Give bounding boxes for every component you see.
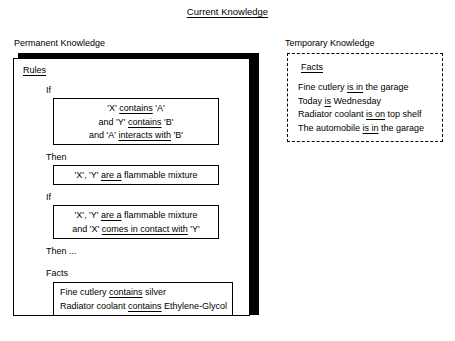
temporary-knowledge-caption: Temporary Knowledge xyxy=(285,38,375,49)
temporary-facts-list: Fine cutlery is in the garage Today is W… xyxy=(298,81,424,135)
permanent-facts-box: Fine cutlery contains silver Radiator co… xyxy=(53,282,233,316)
rule1-then-label: Then xyxy=(46,152,67,163)
rule1-then-line-1: 'X', 'Y' are a flammable mixture xyxy=(60,169,212,183)
temporary-fact-line-2: Today is Wednesday xyxy=(298,95,424,109)
rules-heading: Rules xyxy=(23,65,46,76)
page-title-text: Current Knowledge xyxy=(187,6,268,17)
temporary-fact-line-4: The automobile is in the garage xyxy=(298,122,424,136)
page-title: Current Knowledge xyxy=(0,6,455,18)
permanent-facts-label: Facts xyxy=(46,268,68,279)
rule1-if-line-2: and 'Y' contains 'B' xyxy=(60,116,212,130)
rule1-then-box: 'X', 'Y' are a flammable mixture xyxy=(53,165,219,185)
permanent-fact-line-2: Radiator coolant contains Ethylene-Glyco… xyxy=(60,300,226,314)
rule1-if-label: If xyxy=(46,85,51,96)
temporary-fact-line-3: Radiator coolant is on top shelf xyxy=(298,108,424,122)
rule1-if-box: 'X' contains 'A' and 'Y' contains 'B' an… xyxy=(53,98,219,145)
permanent-fact-line-1: Fine cutlery contains silver xyxy=(60,286,226,300)
rule1-if-line-3: and 'A' interacts with 'B' xyxy=(60,129,212,143)
permanent-knowledge-panel: Rules If 'X' contains 'A' and 'Y' contai… xyxy=(13,58,250,316)
rule1-if-line-1: 'X' contains 'A' xyxy=(60,102,212,116)
temporary-knowledge-panel: Facts Fine cutlery is in the garage Toda… xyxy=(287,53,443,142)
rule2-if-box: 'X', 'Y' are a flammable mixture and 'X'… xyxy=(53,205,219,239)
temporary-fact-line-1: Fine cutlery is in the garage xyxy=(298,81,424,95)
rule2-if-label: If xyxy=(46,192,51,203)
temporary-facts-heading: Facts xyxy=(301,62,323,73)
rule2-then-label: Then ... xyxy=(46,246,77,257)
rule2-if-line-1: 'X', 'Y' are a flammable mixture xyxy=(60,209,212,223)
rule2-if-line-2: and 'X' comes in contact with 'Y' xyxy=(60,223,212,237)
permanent-knowledge-caption: Permanent Knowledge xyxy=(14,38,105,49)
